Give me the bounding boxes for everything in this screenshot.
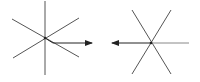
diagram-canvas (0, 0, 200, 82)
right-arrow-icon (45, 38, 92, 43)
left-star (12, 1, 92, 75)
right-star (112, 10, 189, 74)
